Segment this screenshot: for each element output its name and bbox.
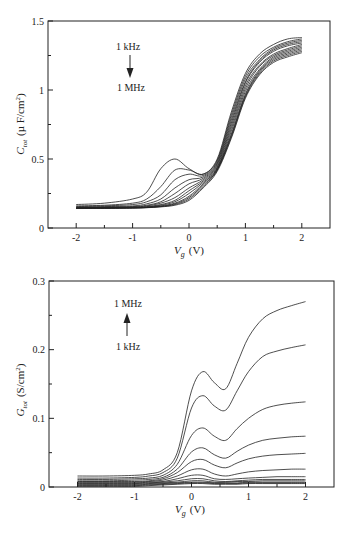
y-tick-label: 0 <box>40 482 45 493</box>
x-tick-label: -2 <box>72 232 80 243</box>
x-tick-label: -2 <box>73 491 81 502</box>
y-tick-label: 0.5 <box>32 154 45 165</box>
annotation-bottom: 1 MHz <box>117 82 146 93</box>
curves <box>76 38 302 209</box>
y-tick-label: 1 <box>39 85 44 96</box>
y-tick-label: 0.2 <box>33 344 46 355</box>
plot-frame <box>49 281 334 487</box>
figure: -2-1012 00.511.5 1 kHz 1 MHz Vg(V) Ctot(… <box>0 0 351 537</box>
series-line <box>78 436 306 481</box>
x-ticks: -2-1012 <box>72 223 304 243</box>
x-axis-title: Vg(V) <box>174 244 204 259</box>
y-ticks: 00.511.5 <box>32 16 54 234</box>
x-tick-label: 0 <box>189 491 194 502</box>
y-tick-label: 0 <box>39 223 44 234</box>
y-axis-title: Gtot(S/cm2) <box>14 363 29 416</box>
x-axis-title: Vg(V) <box>175 503 205 518</box>
y-tick-label: 0.1 <box>33 413 46 424</box>
series-line <box>76 43 302 207</box>
plot-frame <box>48 21 330 228</box>
x-tick-label: 2 <box>299 232 304 243</box>
conductance-chart: -2-1012 00.10.20.3 1 MHz 1 kHz Vg(V) Gto… <box>14 276 334 519</box>
series-line <box>78 302 306 476</box>
y-tick-label: 0.3 <box>33 276 46 287</box>
series-line <box>76 50 302 208</box>
y-ticks: 00.10.20.3 <box>33 276 55 493</box>
arrow-up-icon <box>124 313 131 336</box>
y-tick-label: 1.5 <box>32 16 45 27</box>
capacitance-chart: -2-1012 00.511.5 1 kHz 1 MHz Vg(V) Ctot(… <box>14 16 330 260</box>
annotation-top: 1 kHz <box>116 41 141 52</box>
x-tick-label: 0 <box>187 232 192 243</box>
annotation-bottom: 1 kHz <box>116 341 141 352</box>
x-tick-label: -1 <box>128 232 136 243</box>
arrow-down-icon <box>127 55 134 78</box>
y-axis-title: Ctot(µ F/cm2) <box>14 93 29 155</box>
series-line <box>76 53 302 209</box>
curves <box>78 302 306 487</box>
series-line <box>76 49 302 209</box>
x-tick-label: 1 <box>243 232 248 243</box>
series-line <box>78 345 306 478</box>
series-line <box>78 402 306 480</box>
x-tick-label: 1 <box>246 491 251 502</box>
annotation-top: 1 MHz <box>114 298 143 309</box>
x-tick-label: -1 <box>130 491 138 502</box>
x-tick-label: 2 <box>303 491 308 502</box>
series-line <box>76 51 302 208</box>
